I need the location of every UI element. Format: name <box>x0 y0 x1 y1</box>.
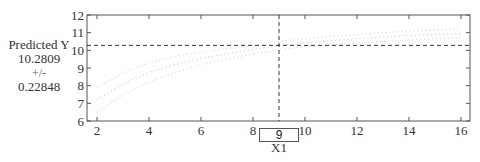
y-tick-label: 10 <box>71 43 84 58</box>
x-tick-label: 4 <box>146 123 153 138</box>
y-tick-label: 11 <box>71 25 84 40</box>
y-tick-label: 6 <box>78 114 85 129</box>
y-tick-label: 8 <box>78 78 85 93</box>
x-tick-label: 12 <box>351 123 364 138</box>
x-tick-label: 2 <box>94 123 101 138</box>
x-tick-label: 6 <box>198 123 205 138</box>
x-tick-label: 16 <box>455 123 469 138</box>
x-tick-label: 8 <box>250 123 257 138</box>
x1-axis-label: X1 <box>259 141 299 155</box>
x-tick-label: 10 <box>299 123 312 138</box>
x-tick-label: 14 <box>403 123 417 138</box>
y-tick-label: 7 <box>78 96 85 111</box>
y-tick-label: 9 <box>78 61 85 76</box>
prediction-plot[interactable]: 2468101214166789101112 <box>0 0 480 162</box>
y-tick-label: 12 <box>71 8 84 23</box>
